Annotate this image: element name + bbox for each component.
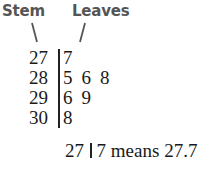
stem-value: 27	[24, 48, 48, 67]
key-leaf: 7	[97, 140, 107, 161]
stem-value: 30	[24, 108, 48, 127]
leaf-value: 6	[82, 68, 92, 87]
leaf-value: 7	[63, 48, 73, 67]
stem-value: 28	[24, 68, 48, 87]
leaf-value: 8	[63, 108, 73, 127]
stem-leaf-divider	[58, 49, 60, 128]
key-divider	[90, 143, 92, 158]
leaf-value: 8	[100, 68, 110, 87]
leaves-values: 568	[63, 68, 119, 87]
plot-key: 277 means 27.7	[65, 141, 197, 160]
stem-value: 29	[24, 88, 48, 107]
leaf-value: 6	[63, 88, 73, 107]
leaves-values: 7	[63, 48, 82, 67]
key-stem: 27	[65, 140, 84, 161]
leaves-pointer-line	[80, 23, 85, 42]
leaf-value: 5	[63, 68, 73, 87]
key-text: means 27.7	[111, 140, 198, 161]
leaf-value: 9	[82, 88, 92, 107]
stem-pointer-line	[32, 23, 37, 42]
leaves-values: 69	[63, 88, 100, 107]
label-pointers	[0, 0, 224, 50]
leaves-values: 8	[63, 108, 82, 127]
